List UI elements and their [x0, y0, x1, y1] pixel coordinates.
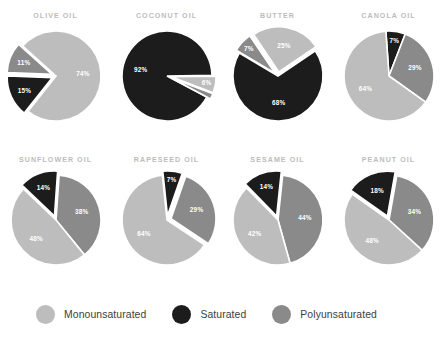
chart-title: RAPESEED OIL [134, 156, 199, 164]
pie-chart: 38%48%14% [4, 168, 108, 272]
pie-svg: 92%6% [115, 24, 219, 128]
pie-chart-cell: RAPESEED OIL7%29%64% [111, 144, 222, 288]
pie-slice-label: 48% [29, 235, 43, 242]
pie-slice-label: 42% [247, 230, 261, 237]
pie-slice-label: 7% [166, 176, 176, 183]
pie-slice-label: 14% [36, 184, 50, 191]
pie-slice-label: 7% [243, 45, 253, 52]
pie-chart-cell: BUTTER68%7%25% [222, 0, 333, 144]
chart-title: SESAME OIL [250, 156, 304, 164]
circle-swatch-icon [172, 305, 191, 324]
pie-slice-label: 29% [189, 206, 203, 213]
legend-items: MonounsaturatedSaturatedPolyunsaturated [0, 305, 377, 324]
pie-svg: 44%42%14% [226, 168, 330, 272]
fat-composition-pie-chart-figure: OLIVE OIL74%15%11%COCONUT OIL92%6%BUTTER… [0, 0, 444, 340]
pie-chart: 7%29%64% [337, 24, 441, 128]
pie-slice-label: 7% [389, 37, 399, 44]
pie-svg: 7%29%64% [337, 24, 441, 128]
legend-item-label: Polyunsaturated [300, 309, 377, 320]
pie-slice-label: 74% [76, 70, 90, 77]
pie-chart: 44%42%14% [226, 168, 330, 272]
chart-title: OLIVE OIL [33, 12, 78, 20]
pie-chart: 74%15%11% [4, 24, 108, 128]
circle-swatch-icon [36, 305, 55, 324]
pie-chart-cell: SESAME OIL44%42%14% [222, 144, 333, 288]
pie-svg: 68%7%25% [226, 24, 330, 128]
pie-chart-cell: OLIVE OIL74%15%11% [0, 0, 111, 144]
pie-chart: 68%7%25% [226, 24, 330, 128]
legend-item-saturated[interactable]: Saturated [172, 305, 246, 324]
pie-slice-label: 6% [201, 79, 211, 86]
pie-chart: 7%29%64% [115, 168, 219, 272]
pie-slice-label: 64% [137, 230, 151, 237]
pie-slice-label: 29% [408, 64, 422, 71]
pie-svg: 7%29%64% [115, 168, 219, 272]
chart-title: BUTTER [260, 12, 295, 20]
chart-legend: MonounsaturatedSaturatedPolyunsaturated [0, 288, 444, 340]
pie-chart-grid: OLIVE OIL74%15%11%COCONUT OIL92%6%BUTTER… [0, 0, 444, 288]
pie-slice-label: 38% [75, 208, 89, 215]
legend-item-monounsaturated[interactable]: Monounsaturated [36, 305, 146, 324]
pie-svg: 34%48%18% [337, 168, 441, 272]
pie-slice-label: 48% [365, 237, 379, 244]
pie-slice-label: 92% [134, 66, 148, 73]
pie-chart: 92%6% [115, 24, 219, 128]
pie-slice-label: 25% [277, 42, 291, 49]
pie-slice-label: 68% [272, 99, 286, 106]
legend-item-label: Saturated [200, 309, 246, 320]
legend-item-label: Monounsaturated [64, 309, 146, 320]
chart-title: PEANUT OIL [362, 156, 415, 164]
pie-slice-label: 11% [17, 59, 30, 66]
pie-svg: 38%48%14% [4, 168, 108, 272]
chart-title: CANOLA OIL [361, 12, 415, 20]
pie-slice-label: 64% [358, 85, 372, 92]
circle-swatch-icon [272, 305, 291, 324]
pie-svg: 74%15%11% [4, 24, 108, 128]
pie-chart-cell: PEANUT OIL34%48%18% [333, 144, 444, 288]
pie-chart-cell: CANOLA OIL7%29%64% [333, 0, 444, 144]
pie-chart: 34%48%18% [337, 168, 441, 272]
pie-slice-label: 15% [17, 87, 31, 94]
pie-chart-cell: COCONUT OIL92%6% [111, 0, 222, 144]
legend-item-polyunsaturated[interactable]: Polyunsaturated [272, 305, 377, 324]
pie-slice[interactable]: 74% [22, 31, 100, 121]
pie-slice-label: 44% [298, 214, 312, 221]
pie-slice-label: 18% [370, 187, 384, 194]
pie-chart-cell: SUNFLOWER OIL38%48%14% [0, 144, 111, 288]
chart-title: COCONUT OIL [136, 12, 197, 20]
chart-title: SUNFLOWER OIL [19, 156, 92, 164]
pie-slice-label: 14% [259, 183, 273, 190]
pie-slice-label: 34% [407, 208, 421, 215]
